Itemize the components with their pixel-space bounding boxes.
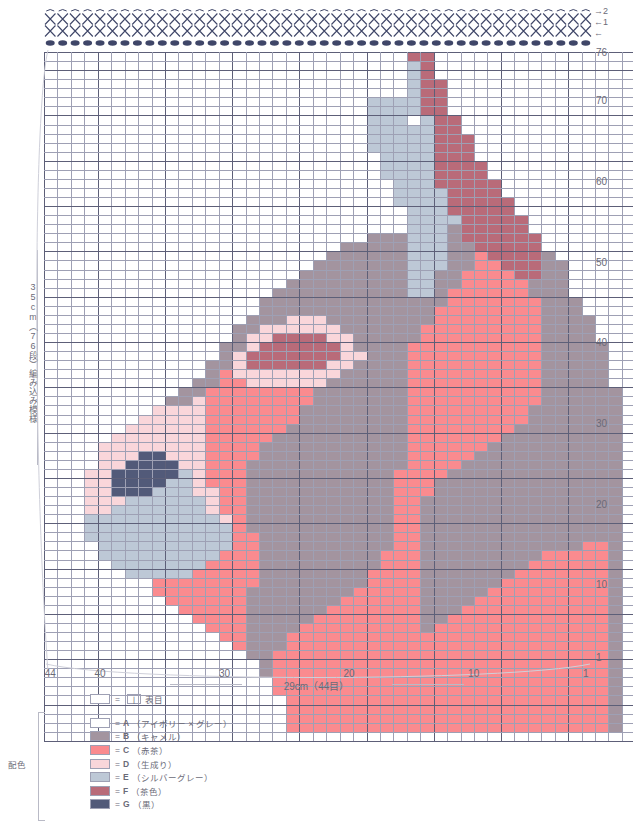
chart-cell[interactable]	[192, 469, 205, 478]
chart-cell[interactable]	[179, 306, 192, 315]
chart-cell[interactable]	[71, 152, 84, 161]
chart-cell[interactable]	[85, 560, 98, 569]
chart-cell[interactable]	[367, 53, 380, 62]
chart-cell[interactable]	[488, 188, 501, 197]
chart-cell[interactable]	[434, 315, 447, 324]
chart-cell[interactable]	[582, 524, 595, 533]
chart-cell[interactable]	[152, 633, 165, 642]
chart-cell[interactable]	[475, 352, 488, 361]
chart-cell[interactable]	[219, 288, 232, 297]
chart-cell[interactable]	[569, 442, 582, 451]
chart-cell[interactable]	[354, 651, 367, 660]
chart-cell[interactable]	[394, 506, 407, 515]
chart-cell[interactable]	[260, 478, 273, 487]
chart-cell[interactable]	[421, 469, 434, 478]
chart-cell[interactable]	[515, 324, 528, 333]
chart-cell[interactable]	[488, 207, 501, 216]
chart-cell[interactable]	[542, 53, 555, 62]
chart-cell[interactable]	[488, 633, 501, 642]
chart-cell[interactable]	[71, 343, 84, 352]
chart-cell[interactable]	[313, 143, 326, 152]
chart-cell[interactable]	[421, 116, 434, 125]
chart-cell[interactable]	[85, 333, 98, 342]
chart-cell[interactable]	[327, 116, 340, 125]
chart-cell[interactable]	[152, 424, 165, 433]
chart-cell[interactable]	[152, 361, 165, 370]
chart-cell[interactable]	[380, 225, 393, 234]
chart-cell[interactable]	[461, 569, 474, 578]
chart-cell[interactable]	[219, 560, 232, 569]
chart-cell[interactable]	[98, 633, 111, 642]
chart-cell[interactable]	[555, 415, 568, 424]
chart-cell[interactable]	[475, 578, 488, 587]
chart-cell[interactable]	[219, 569, 232, 578]
chart-cell[interactable]	[595, 379, 608, 388]
chart-cell[interactable]	[555, 433, 568, 442]
chart-cell[interactable]	[380, 596, 393, 605]
chart-cell[interactable]	[569, 188, 582, 197]
chart-cell[interactable]	[421, 623, 434, 632]
chart-cell[interactable]	[609, 651, 622, 660]
chart-cell[interactable]	[71, 80, 84, 89]
chart-cell[interactable]	[609, 179, 622, 188]
chart-cell[interactable]	[286, 569, 299, 578]
chart-cell[interactable]	[569, 433, 582, 442]
chart-cell[interactable]	[300, 216, 313, 225]
chart-cell[interactable]	[515, 551, 528, 560]
chart-cell[interactable]	[528, 723, 541, 732]
chart-cell[interactable]	[71, 306, 84, 315]
chart-cell[interactable]	[475, 297, 488, 306]
chart-cell[interactable]	[622, 415, 633, 424]
chart-cell[interactable]	[461, 243, 474, 252]
chart-cell[interactable]	[112, 188, 125, 197]
chart-cell[interactable]	[354, 578, 367, 587]
chart-cell[interactable]	[260, 243, 273, 252]
chart-cell[interactable]	[286, 53, 299, 62]
chart-cell[interactable]	[313, 460, 326, 469]
chart-cell[interactable]	[233, 252, 246, 261]
chart-cell[interactable]	[85, 179, 98, 188]
chart-cell[interactable]	[233, 306, 246, 315]
chart-cell[interactable]	[112, 651, 125, 660]
chart-cell[interactable]	[461, 578, 474, 587]
chart-cell[interactable]	[434, 279, 447, 288]
chart-cell[interactable]	[327, 542, 340, 551]
chart-cell[interactable]	[260, 288, 273, 297]
chart-cell[interactable]	[98, 161, 111, 170]
chart-cell[interactable]	[488, 80, 501, 89]
chart-cell[interactable]	[206, 152, 219, 161]
chart-cell[interactable]	[555, 551, 568, 560]
chart-cell[interactable]	[125, 524, 138, 533]
chart-row[interactable]	[45, 225, 633, 234]
chart-cell[interactable]	[542, 324, 555, 333]
chart-cell[interactable]	[85, 188, 98, 197]
chart-cell[interactable]	[219, 469, 232, 478]
chart-cell[interactable]	[461, 207, 474, 216]
chart-cell[interactable]	[421, 297, 434, 306]
chart-cell[interactable]	[595, 134, 608, 143]
chart-cell[interactable]	[139, 134, 152, 143]
chart-cell[interactable]	[233, 542, 246, 551]
chart-cell[interactable]	[340, 370, 353, 379]
chart-cell[interactable]	[434, 324, 447, 333]
chart-cell[interactable]	[555, 80, 568, 89]
chart-cell[interactable]	[98, 397, 111, 406]
chart-cell[interactable]	[434, 451, 447, 460]
chart-cell[interactable]	[501, 198, 514, 207]
chart-cell[interactable]	[380, 488, 393, 497]
chart-cell[interactable]	[622, 705, 633, 714]
chart-cell[interactable]	[622, 89, 633, 98]
chart-cell[interactable]	[192, 161, 205, 170]
chart-cell[interactable]	[98, 216, 111, 225]
chart-cell[interactable]	[421, 542, 434, 551]
chart-cell[interactable]	[139, 315, 152, 324]
chart-row[interactable]	[45, 451, 633, 460]
chart-cell[interactable]	[125, 261, 138, 270]
chart-cell[interactable]	[501, 460, 514, 469]
chart-cell[interactable]	[286, 478, 299, 487]
chart-cell[interactable]	[609, 152, 622, 161]
chart-cell[interactable]	[488, 469, 501, 478]
chart-cell[interactable]	[85, 596, 98, 605]
chart-cell[interactable]	[85, 143, 98, 152]
chart-cell[interactable]	[461, 170, 474, 179]
